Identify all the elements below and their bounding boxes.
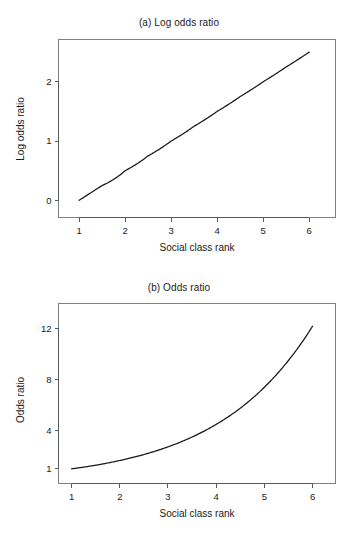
- chart-b-x-axis: [72, 484, 313, 488]
- x-tick-label: 5: [262, 491, 267, 502]
- chart-b-x-axis-title: Social class rank: [159, 508, 235, 519]
- chart-b-x-tick-labels: 123456: [69, 491, 315, 502]
- chart-a-y-axis-title: Log odds ratio: [15, 97, 26, 161]
- chart-a-x-axis: [79, 218, 309, 222]
- chart-b-plot-area: 14812 123456 Social class rank Odds rati…: [0, 278, 358, 556]
- x-tick-label: 4: [214, 491, 219, 502]
- chart-a-frame: [59, 40, 336, 218]
- chart-b-series-line: [72, 326, 313, 469]
- chart-b-y-axis: [55, 328, 59, 468]
- x-tick-label: 1: [76, 225, 81, 236]
- chart-a-x-axis-title: Social class rank: [159, 242, 235, 253]
- chart-a-y-axis: [55, 82, 59, 201]
- x-tick-label: 5: [261, 225, 266, 236]
- chart-panel-a: (a) Log odds ratio 012 123456 Social cla…: [0, 0, 358, 278]
- chart-b-y-tick-labels: 14812: [41, 323, 52, 474]
- chart-panel-b: (b) Odds ratio 14812 123456 Social class…: [0, 278, 358, 556]
- x-tick-label: 3: [165, 491, 170, 502]
- y-tick-label: 12: [41, 323, 52, 334]
- chart-b-y-axis-title: Odds ratio: [15, 376, 26, 423]
- x-tick-label: 3: [169, 225, 174, 236]
- y-tick-label: 4: [46, 425, 51, 436]
- y-tick-label: 0: [46, 195, 51, 206]
- x-tick-label: 2: [122, 225, 127, 236]
- chart-b-frame: [59, 304, 336, 484]
- y-tick-label: 8: [46, 374, 51, 385]
- y-tick-label: 1: [46, 135, 51, 146]
- chart-a-y-tick-labels: 012: [46, 76, 51, 206]
- x-tick-label: 6: [307, 225, 312, 236]
- figure-container: (a) Log odds ratio 012 123456 Social cla…: [0, 0, 358, 556]
- x-tick-label: 2: [117, 491, 122, 502]
- x-tick-label: 4: [215, 225, 220, 236]
- y-tick-label: 2: [46, 76, 51, 87]
- chart-a-plot-area: 012 123456 Social class rank Log odds ra…: [0, 0, 358, 278]
- y-tick-label: 1: [46, 463, 51, 474]
- chart-a-x-tick-labels: 123456: [76, 225, 311, 236]
- x-tick-label: 6: [310, 491, 315, 502]
- chart-a-series-line: [79, 52, 309, 200]
- x-tick-label: 1: [69, 491, 74, 502]
